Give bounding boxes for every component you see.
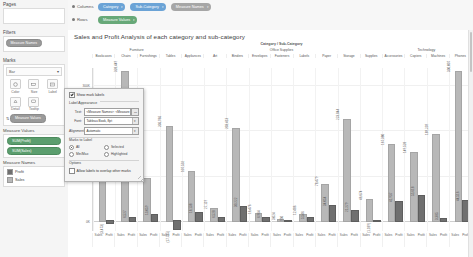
alignment-chevron-down-icon[interactable]: ▾ <box>132 128 138 134</box>
sub-category-header[interactable]: Bookcases <box>92 54 114 58</box>
bar-profit[interactable]: 6,964 <box>262 68 268 231</box>
font-chevron-down-icon[interactable]: ▾ <box>132 118 138 124</box>
bar-profit[interactable]: (1,189) <box>373 68 379 231</box>
scrollbar-thumb[interactable] <box>470 32 473 72</box>
plot-area[interactable]: 114,880(3,473)328,4496,52791,70513,05920… <box>92 68 471 231</box>
radio-highlighted-icon[interactable] <box>104 152 109 157</box>
marks-color-button[interactable]: Color <box>8 79 23 94</box>
bar-sales[interactable]: 78,479 <box>321 68 327 231</box>
category-group-office-supplies[interactable]: Office Supplies <box>181 48 382 52</box>
text-edit-button[interactable]: ⋯ <box>131 108 139 116</box>
label-settings-dialog[interactable]: Show mark labels Label Appearance Text: … <box>64 88 144 182</box>
bar-rect[interactable] <box>418 195 426 222</box>
text-field-row[interactable]: Text: <Measure Names>: <Measure Values> … <box>69 108 139 116</box>
alignment-field-value[interactable]: Automatic▾ <box>84 127 139 135</box>
marks-tooltip-button[interactable]: Tooltip <box>26 97 41 112</box>
font-field-value[interactable]: Tableau Book, 8pt▾ <box>84 117 139 125</box>
bar-rect[interactable] <box>188 171 196 222</box>
bar-rect[interactable] <box>195 212 203 222</box>
pages-shelf[interactable] <box>3 8 65 24</box>
bar-rect[interactable] <box>395 201 403 222</box>
bar-profit[interactable]: 30,222 <box>240 68 246 231</box>
sub-category-header[interactable]: Appliances <box>181 54 203 58</box>
bar-sales[interactable]: 149,528 <box>410 68 416 231</box>
bar-sales[interactable]: 167,380 <box>388 68 394 231</box>
bar-sales[interactable]: 27,119 <box>210 68 216 231</box>
marks-detail-button[interactable]: Detail <box>8 97 23 112</box>
mark-type-dropdown[interactable]: Bar ▾ <box>6 67 62 76</box>
bar-rect[interactable] <box>129 217 137 222</box>
bar-rect[interactable] <box>232 128 240 222</box>
show-mark-labels-checkbox[interactable] <box>69 92 75 98</box>
sort-icon[interactable]: ⇅ <box>6 116 9 121</box>
alignment-field-row[interactable]: Alignment: Automatic▾ <box>69 127 139 135</box>
filters-shelf[interactable]: Measure Names <box>3 36 65 52</box>
bar-sales[interactable]: 3,024 <box>277 68 283 231</box>
bar-rect[interactable] <box>262 217 270 222</box>
bar-profit[interactable]: 21,279 <box>351 68 357 231</box>
sub-category-header[interactable]: Labels <box>293 54 315 58</box>
sub-category-header[interactable]: Chairs <box>114 54 136 58</box>
bar-rect[interactable] <box>240 206 248 222</box>
sub-category-header[interactable]: Fasteners <box>270 54 292 58</box>
bar-rect[interactable] <box>440 218 448 222</box>
bar-sales[interactable]: 189,239 <box>432 68 438 231</box>
bar-profit[interactable]: 18,138 <box>195 68 201 231</box>
bar-rect[interactable] <box>307 217 315 222</box>
sub-category-header[interactable]: Storage <box>337 54 359 58</box>
bar-profit[interactable]: 13,059 <box>151 68 157 231</box>
columns-pill-measure-names[interactable]: Measure Names <box>171 3 211 11</box>
bar-rect[interactable] <box>366 199 374 222</box>
text-field-value[interactable]: <Measure Names>: <Measure Values> <box>84 108 131 116</box>
sub-category-header[interactable]: Furnishings <box>137 54 159 58</box>
columns-shelf[interactable]: Columns Category Sub-Category Measure Na… <box>68 0 473 13</box>
bar-rect[interactable] <box>106 220 114 224</box>
sub-category-header[interactable]: Accessories <box>382 54 404 58</box>
bar-profit[interactable]: 3,385 <box>440 68 446 231</box>
legend-item-sales[interactable]: Sales <box>7 177 61 183</box>
bar-sales[interactable]: 16,476 <box>255 68 261 231</box>
bar-rect[interactable] <box>151 214 159 222</box>
bar-rect[interactable] <box>329 205 337 222</box>
bar-profit[interactable]: (17,725) <box>173 68 179 231</box>
sub-category-header[interactable]: Art <box>203 54 225 58</box>
bar-rect[interactable] <box>173 220 181 230</box>
bar-sales[interactable]: 330,007 <box>455 68 461 231</box>
sub-category-header[interactable]: Paper <box>315 54 337 58</box>
bar-rect[interactable] <box>166 126 174 222</box>
radio-selected-icon[interactable] <box>104 145 109 150</box>
sub-category-header[interactable]: Supplies <box>360 54 382 58</box>
radio-minmax-icon[interactable] <box>69 152 74 157</box>
radio-option-selected[interactable]: Selected <box>104 145 139 150</box>
columns-pill-sub-category[interactable]: Sub-Category <box>130 3 165 11</box>
bar-profit[interactable]: 5,546 <box>307 68 313 231</box>
columns-pill-category[interactable]: Category <box>98 3 125 11</box>
sub-category-header[interactable]: Tables <box>159 54 181 58</box>
bar-sales[interactable]: 206,966 <box>166 68 172 231</box>
radio-option-all[interactable]: All <box>69 145 104 150</box>
sub-category-header[interactable]: Machines <box>426 54 448 58</box>
bar-profit[interactable]: 34,054 <box>329 68 335 231</box>
bar-rect[interactable] <box>373 220 381 223</box>
bar-profit[interactable]: 950 <box>284 68 290 231</box>
allow-overlap-row[interactable]: Allow labels to overlap other marks <box>69 168 139 174</box>
bar-sales[interactable]: 46,674 <box>366 68 372 231</box>
bar-profit[interactable]: 55,618 <box>418 68 424 231</box>
font-field-row[interactable]: Font: Tableau Book, 8pt▾ <box>69 117 139 125</box>
bar-profit[interactable]: 41,937 <box>395 68 401 231</box>
show-mark-labels-row[interactable]: Show mark labels <box>69 92 139 98</box>
allow-overlap-checkbox[interactable] <box>69 168 75 174</box>
radio-option-minmax[interactable]: Min/Max <box>69 152 104 157</box>
marks-pill-measure-values[interactable]: Measure Values <box>10 114 46 123</box>
bar-rect[interactable] <box>388 144 396 222</box>
vertical-scrollbar[interactable] <box>468 30 473 257</box>
radio-all-icon[interactable] <box>69 145 74 150</box>
bar-profit[interactable]: 6,528 <box>218 68 224 231</box>
bar-rect[interactable] <box>351 210 359 222</box>
category-group-furniture[interactable]: Furniture <box>92 48 181 52</box>
rows-pill-measure-values[interactable]: Measure Values <box>98 16 137 24</box>
measure-value-pill-sales[interactable]: SUM(Sales) <box>7 147 61 156</box>
measure-value-pill-profit[interactable]: SUM(Profit) <box>7 137 61 146</box>
rows-shelf[interactable]: Rows Measure Values <box>68 13 473 26</box>
bar-rect[interactable] <box>218 217 226 222</box>
